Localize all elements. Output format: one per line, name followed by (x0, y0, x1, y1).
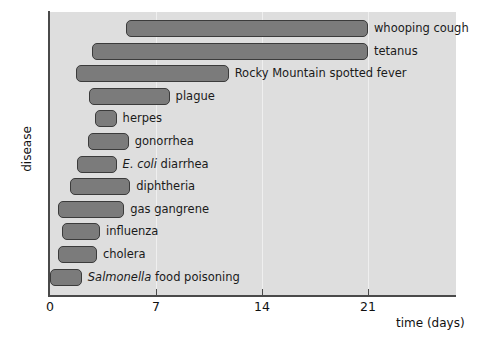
bar-label: whooping cough (374, 21, 469, 36)
bar-row: Rocky Mountain spotted fever (0, 63, 486, 85)
bar[interactable] (70, 178, 131, 195)
bar-label: influenza (106, 224, 158, 239)
bar-chart: whooping coughtetanusRocky Mountain spot… (0, 0, 486, 340)
bar[interactable] (50, 269, 82, 286)
bar-label: cholera (103, 247, 146, 262)
bar-label: Rocky Mountain spotted fever (235, 66, 407, 81)
bar[interactable] (58, 246, 97, 263)
bar-row: gas gangrene (0, 199, 486, 221)
bar-row: plague (0, 86, 486, 108)
bar[interactable] (92, 43, 368, 60)
x-tick-mark (262, 289, 264, 295)
x-tick-mark (156, 289, 158, 295)
bar-label: gas gangrene (130, 202, 209, 217)
bar-label: plague (176, 89, 215, 104)
bar-row: influenza (0, 221, 486, 243)
bar[interactable] (76, 65, 229, 82)
bar-row: E. coli diarrhea (0, 154, 486, 176)
bar-label: herpes (123, 111, 162, 126)
bar[interactable] (88, 133, 129, 150)
bar-row: gonorrhea (0, 131, 486, 153)
bar-row: whooping cough (0, 18, 486, 40)
bar[interactable] (126, 20, 368, 37)
species-name: Salmonella (88, 270, 152, 284)
bar-label: E. coli diarrhea (123, 157, 209, 172)
bar-label: tetanus (374, 44, 418, 59)
y-axis-title: disease (20, 114, 34, 184)
x-tick-mark (368, 289, 370, 295)
bar[interactable] (77, 156, 116, 173)
bars-layer: whooping coughtetanusRocky Mountain spot… (0, 0, 486, 340)
bar[interactable] (95, 110, 116, 127)
bar-row: herpes (0, 108, 486, 130)
bar[interactable] (62, 223, 100, 240)
species-name: E. coli (123, 157, 157, 171)
x-tick-label: 21 (360, 299, 376, 314)
bar[interactable] (89, 88, 169, 105)
x-tick-label: 7 (152, 299, 160, 314)
bar[interactable] (58, 201, 125, 218)
x-axis-title: time (days) (396, 316, 465, 330)
bar-row: Salmonella food poisoning (0, 267, 486, 289)
bar-row: diphtheria (0, 176, 486, 198)
bar-row: cholera (0, 244, 486, 266)
bar-label: diphtheria (136, 179, 195, 194)
x-tick-label: 0 (46, 299, 54, 314)
bar-label: Salmonella food poisoning (88, 270, 240, 285)
bar-label: gonorrhea (135, 134, 194, 149)
x-tick-label: 14 (254, 299, 270, 314)
bar-row: tetanus (0, 41, 486, 63)
